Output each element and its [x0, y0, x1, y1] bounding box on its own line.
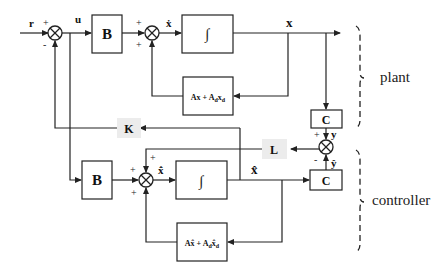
sum-junction-2 — [145, 26, 159, 40]
xhat-label: x̂ — [251, 162, 258, 177]
controller-group-label: controller — [372, 192, 430, 208]
sum3-minus-sign: - — [314, 154, 317, 165]
y-label: y — [331, 128, 337, 140]
controller-C-label: C — [322, 174, 331, 188]
u-label: u — [75, 13, 81, 25]
r-label: r — [29, 17, 34, 29]
plant-C-label: C — [322, 113, 331, 127]
sum-junction-3 — [319, 140, 333, 154]
K-gain-label: K — [124, 122, 134, 136]
sum1-minus-sign: - — [43, 39, 46, 50]
x-label: x — [286, 15, 293, 30]
sum-junction-4 — [139, 173, 153, 187]
u-to-controller-line — [70, 33, 81, 180]
sum4-plus-sign-fb: + — [131, 187, 137, 198]
sum4-plus-sign-L: + — [150, 152, 156, 163]
sum-junction-1 — [48, 26, 62, 40]
xdot-label: ẋ — [166, 17, 172, 29]
block-diagram: r + - u B + + ẋ ∫ x Ax + Adxd C y + — [0, 0, 443, 276]
plant-brace — [356, 26, 364, 128]
controller-feedback-out-line — [146, 188, 177, 242]
sum2-plus-sign-1: + — [136, 17, 142, 28]
K-to-sum1-line — [55, 41, 117, 128]
plant-feedback-in-line — [234, 33, 288, 96]
plant-feedback-out-line — [152, 41, 183, 96]
sum2-plus-sign-2: + — [136, 39, 142, 50]
yhat-label: ŷ — [331, 157, 337, 169]
plant-group-label: plant — [380, 69, 411, 85]
sum1-plus-sign: + — [43, 17, 49, 28]
controller-brace — [356, 150, 364, 252]
sum4-plus-sign-B: + — [130, 164, 136, 175]
xhatdot-label: x̂̇ — [158, 164, 164, 176]
sum3-plus-sign: + — [314, 129, 320, 140]
plant-B-label: B — [102, 26, 112, 42]
controller-feedback-in-line — [228, 180, 282, 242]
plant-dynamics-label: Ax + Adxd — [191, 93, 226, 103]
controller-dynamics-label: Ax̂ + Adx̂d — [185, 239, 220, 249]
L-gain-label: L — [270, 143, 278, 157]
controller-B-label: B — [92, 172, 102, 188]
